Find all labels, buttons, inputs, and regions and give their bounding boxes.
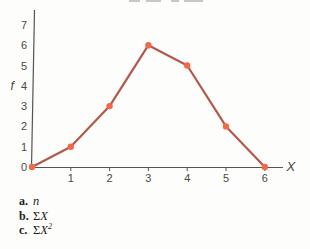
question-label: b. (19, 209, 33, 224)
data-point-marker (184, 62, 190, 68)
frequency-polygon-chart: 12345601234567fX (0, 0, 310, 190)
x-tick-label: 5 (223, 172, 229, 184)
x-tick-label: 3 (145, 172, 151, 184)
x-tick-label: 4 (184, 172, 190, 184)
data-point-marker (145, 42, 151, 48)
x-axis-label: X (286, 159, 297, 174)
x-tick-label: 2 (107, 172, 113, 184)
question-item-c: c. ΣX2 (19, 222, 52, 237)
y-tick-label: 6 (21, 39, 27, 51)
x-tick-label: 1 (68, 172, 74, 184)
data-point-marker (29, 164, 35, 170)
data-point-marker (68, 144, 74, 150)
question-expression: ΣX2 (33, 222, 52, 238)
frequency-polyline (32, 45, 265, 167)
question-label: c. (19, 223, 33, 238)
question-label: a. (19, 194, 33, 209)
data-point-marker (262, 164, 268, 170)
y-axis-label: f (11, 79, 16, 93)
y-tick-label: 5 (21, 60, 27, 72)
y-tick-label: 4 (21, 80, 27, 92)
question-item-a: a. n (19, 193, 52, 208)
variable-symbol: X (40, 223, 48, 237)
y-tick-label: 2 (21, 120, 27, 132)
data-point-marker (106, 103, 112, 109)
variable-symbol: X (40, 209, 48, 223)
figure-panel: 12345601234567fX a. n b. ΣX c. ΣX2 (0, 0, 310, 249)
y-tick-label: 0 (21, 161, 27, 173)
variable-symbol: n (33, 194, 39, 208)
y-axis-line (32, 10, 35, 168)
x-tick-label: 6 (262, 172, 268, 184)
question-list: a. n b. ΣX c. ΣX2 (19, 193, 52, 237)
y-tick-label: 1 (21, 141, 27, 153)
data-point-marker (223, 123, 229, 129)
question-item-b: b. ΣX (19, 208, 52, 223)
exponent: 2 (48, 222, 52, 231)
y-tick-label: 7 (21, 19, 27, 31)
y-tick-label: 3 (21, 100, 27, 112)
